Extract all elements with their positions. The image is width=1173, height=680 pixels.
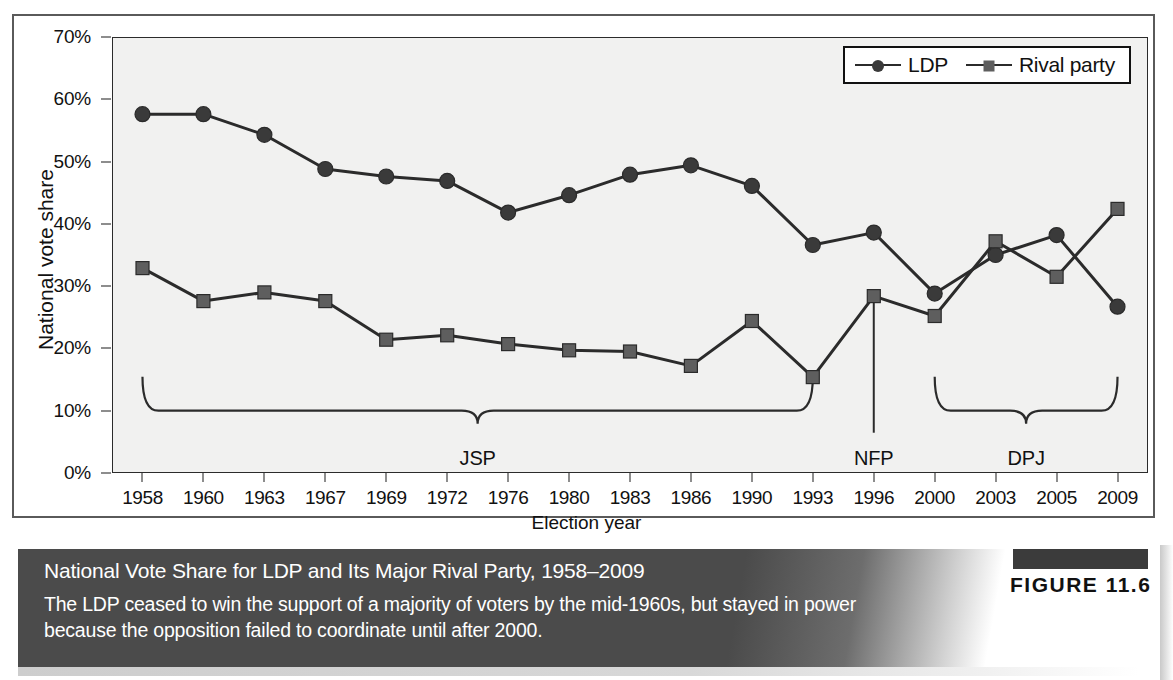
circle-marker-icon	[872, 60, 884, 72]
square-marker-icon	[983, 61, 994, 72]
figure-tag-bar	[1013, 549, 1148, 569]
x-axis-tick	[142, 473, 143, 482]
x-axis-tick	[812, 473, 813, 482]
y-axis-tick	[101, 286, 111, 287]
legend-line-rival	[966, 64, 1012, 66]
legend-item-ldp: LDP	[855, 53, 948, 77]
caption-right-edge	[1160, 545, 1173, 680]
x-axis-tick	[203, 473, 204, 482]
caption-body: The LDP ceased to win the support of a m…	[44, 592, 924, 644]
x-axis-tick	[1056, 473, 1057, 482]
x-axis-tick	[569, 473, 570, 482]
x-axis-tick-label: 1993	[778, 487, 848, 509]
x-axis-tick	[873, 473, 874, 482]
x-axis-tick-label: 1983	[595, 487, 665, 509]
x-axis-tick	[934, 473, 935, 482]
x-axis-tick-label: 1976	[473, 487, 543, 509]
x-axis-tick-label: 1972	[412, 487, 482, 509]
x-axis-tick	[690, 473, 691, 482]
y-axis-tick	[101, 348, 111, 349]
caption-text: National Vote Share for LDP and Its Majo…	[44, 559, 924, 644]
legend-label-ldp: LDP	[908, 53, 948, 77]
y-axis-tick-label: 70%	[11, 26, 91, 48]
x-axis-tick	[1117, 473, 1118, 482]
caption-shadow	[18, 667, 1138, 676]
y-axis-tick	[101, 37, 111, 38]
figure-caption-band: National Vote Share for LDP and Its Majo…	[0, 545, 1173, 680]
y-axis-tick	[101, 410, 111, 411]
annotation-label-jsp: JSP	[460, 447, 496, 470]
y-axis-title: National vote share	[34, 169, 58, 350]
x-axis-tick	[325, 473, 326, 482]
legend-item-rival: Rival party	[966, 53, 1115, 77]
x-axis-tick-label: 2009	[1083, 487, 1153, 509]
y-axis-tick	[101, 473, 111, 474]
y-axis-tick	[101, 161, 111, 162]
x-axis-tick	[386, 473, 387, 482]
x-axis-tick-label: 2005	[1022, 487, 1092, 509]
y-axis-tick-label: 10%	[11, 400, 91, 422]
y-axis-tick-label: 60%	[11, 88, 91, 110]
x-axis-tick	[447, 473, 448, 482]
legend-line-ldp	[855, 64, 901, 66]
caption-title: National Vote Share for LDP and Its Majo…	[44, 559, 924, 583]
x-axis-tick	[995, 473, 996, 482]
x-axis-tick-label: 1980	[534, 487, 604, 509]
x-axis-tick-label: 1986	[656, 487, 726, 509]
x-axis-title: Election year	[0, 512, 1173, 534]
y-axis-tick	[101, 99, 111, 100]
y-axis-tick-label: 0%	[11, 462, 91, 484]
x-axis-tick	[751, 473, 752, 482]
annotation-label-dpj: DPJ	[1008, 447, 1045, 470]
x-axis-tick-label: 1969	[351, 487, 421, 509]
x-axis-tick-label: 1963	[229, 487, 299, 509]
x-axis-tick-label: 2000	[900, 487, 970, 509]
x-axis-tick-label: 1967	[290, 487, 360, 509]
x-axis-tick-label: 1996	[839, 487, 909, 509]
figure-tag-label: FIGURE 11.6	[1010, 573, 1160, 597]
x-axis-tick-label: 2003	[961, 487, 1031, 509]
chart-figure: 0%10%20%30%40%50%60%70%19581960196319671…	[0, 0, 1173, 545]
annotation-label-nfp: NFP	[854, 447, 893, 470]
x-axis-tick	[508, 473, 509, 482]
x-axis-tick	[264, 473, 265, 482]
x-axis-tick-label: 1960	[168, 487, 238, 509]
chart-legend: LDP Rival party	[843, 46, 1131, 84]
figure-root: 0%10%20%30%40%50%60%70%19581960196319671…	[0, 0, 1173, 680]
x-axis-tick-label: 1958	[107, 487, 177, 509]
y-axis-tick	[101, 223, 111, 224]
x-axis-tick	[630, 473, 631, 482]
legend-label-rival: Rival party	[1019, 53, 1115, 77]
x-axis-tick-label: 1990	[717, 487, 787, 509]
